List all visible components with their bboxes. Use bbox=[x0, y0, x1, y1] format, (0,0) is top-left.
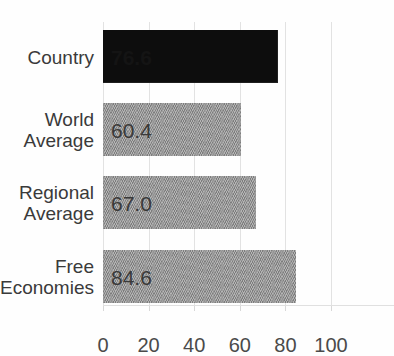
bar-value-regional-average: 67.0 bbox=[111, 192, 152, 213]
bar-value-world-average: 60.4 bbox=[111, 119, 152, 140]
tick-80 bbox=[285, 306, 286, 311]
bar-row-regional-average: Regional Average 67.0 bbox=[103, 176, 331, 229]
bar-value-country: 76.6 bbox=[111, 46, 152, 67]
tick-20 bbox=[149, 306, 150, 311]
bar-regional-average[interactable]: 67.0 bbox=[103, 176, 256, 229]
chart-title-cropped bbox=[0, 0, 394, 7]
tick-label-40: 40 bbox=[183, 334, 205, 356]
plot-area: Country 76.6 World Average 60.4 Regional… bbox=[103, 22, 331, 306]
tick-label-0: 0 bbox=[97, 334, 108, 356]
tick-60 bbox=[240, 306, 241, 311]
bar-chart: Country 76.6 World Average 60.4 Regional… bbox=[0, 0, 394, 356]
bar-label-free-economies: Free Economies bbox=[0, 256, 94, 298]
tick-100 bbox=[331, 306, 332, 311]
bar-row-world-average: World Average 60.4 bbox=[103, 103, 331, 156]
tick-label-100: 100 bbox=[314, 334, 347, 356]
bar-country[interactable]: 76.6 bbox=[103, 30, 278, 83]
bar-world-average[interactable]: 60.4 bbox=[103, 103, 241, 156]
gridline-100 bbox=[331, 22, 332, 306]
x-axis-line bbox=[103, 305, 394, 306]
bar-value-free-economies: 84.6 bbox=[111, 266, 152, 287]
tick-label-60: 60 bbox=[229, 334, 251, 356]
tick-label-80: 80 bbox=[274, 334, 296, 356]
bar-label-world-average: World Average bbox=[0, 109, 94, 151]
bar-free-economies[interactable]: 84.6 bbox=[103, 250, 296, 303]
tick-label-20: 20 bbox=[137, 334, 159, 356]
bar-row-free-economies: Free Economies 84.6 bbox=[103, 250, 331, 303]
bar-row-country: Country 76.6 bbox=[103, 30, 331, 83]
bar-label-regional-average: Regional Average bbox=[0, 182, 94, 224]
bar-label-country: Country bbox=[0, 46, 94, 67]
tick-0 bbox=[103, 306, 104, 311]
tick-40 bbox=[194, 306, 195, 311]
